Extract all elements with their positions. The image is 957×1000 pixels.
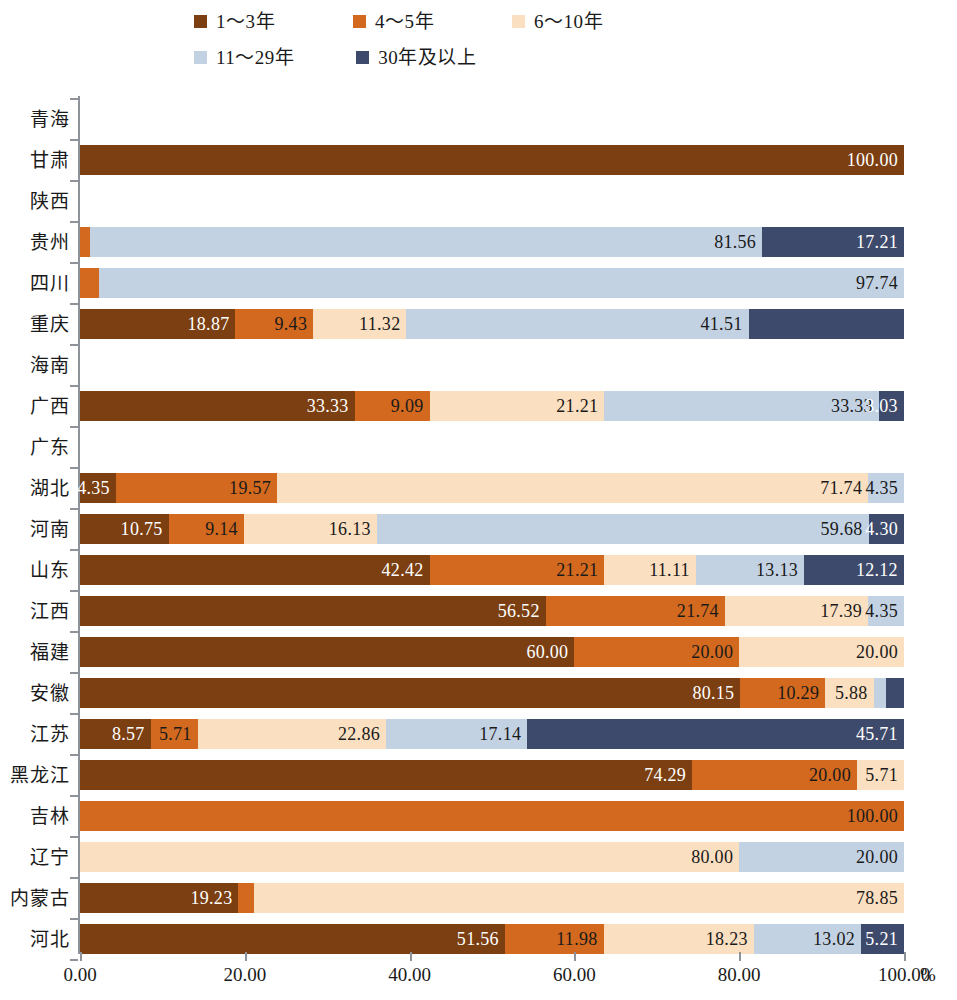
- bar-segment[interactable]: 33.33: [604, 391, 879, 421]
- bar-segment[interactable]: 78.85: [254, 883, 904, 913]
- x-axis-tick-1: [245, 952, 247, 961]
- bar-segment[interactable]: 100.00: [80, 145, 904, 175]
- bar-segment[interactable]: 100.00: [80, 801, 904, 831]
- legend-item-1-3years[interactable]: 1～3年: [194, 6, 275, 36]
- bar-segment[interactable]: 60.00: [80, 637, 574, 667]
- bar-row[interactable]: 10.759.1416.1359.684.30: [80, 514, 904, 544]
- bar-row[interactable]: 4.3519.5771.744.35: [80, 473, 904, 503]
- bar-segment[interactable]: 5.71: [857, 760, 904, 790]
- bar-segment[interactable]: 8.57: [80, 719, 151, 749]
- bar-segment[interactable]: 5.21: [861, 924, 904, 954]
- y-axis-tick-6: [70, 344, 78, 346]
- bar-row[interactable]: 51.5611.9818.2313.025.21: [80, 924, 904, 954]
- bar-segment[interactable]: 13.02: [754, 924, 861, 954]
- bar-segment[interactable]: 21.21: [430, 555, 605, 585]
- bar-segment[interactable]: 20.00: [574, 637, 739, 667]
- bar-segment[interactable]: 45.71: [527, 719, 904, 749]
- bar-segment[interactable]: 5.71: [151, 719, 198, 749]
- legend-item-6-10years[interactable]: 6～10年: [512, 6, 603, 36]
- bar-segment[interactable]: 4.30: [869, 514, 904, 544]
- y-axis-label-15: 江苏: [30, 725, 70, 744]
- bar-segment[interactable]: 9.14: [169, 514, 244, 544]
- bar-segment[interactable]: 59.68: [377, 514, 869, 544]
- bar-segment[interactable]: 10.29: [740, 678, 825, 708]
- bar-segment[interactable]: [886, 678, 904, 708]
- bar-segment-value: 18.23: [706, 930, 748, 948]
- bar-segment[interactable]: 12.12: [804, 555, 904, 585]
- bar-segment[interactable]: 74.29: [80, 760, 692, 790]
- bar-segment[interactable]: 80.15: [80, 678, 740, 708]
- bar-row[interactable]: 42.4221.2111.1113.1312.12: [80, 555, 904, 585]
- y-axis-label-2: 陕西: [30, 192, 70, 211]
- bar-segment[interactable]: 19.57: [116, 473, 277, 503]
- bar-segment-value: 5.71: [159, 725, 192, 743]
- bar-row[interactable]: 56.5221.7417.394.35: [80, 596, 904, 626]
- bar-segment[interactable]: 4.35: [868, 596, 904, 626]
- bar-row[interactable]: 74.2920.005.71: [80, 760, 904, 790]
- bar-segment[interactable]: 13.13: [696, 555, 804, 585]
- bar-segment[interactable]: [238, 883, 254, 913]
- bar-row[interactable]: [80, 186, 904, 216]
- bar-segment[interactable]: [80, 268, 99, 298]
- bar-segment[interactable]: 33.33: [80, 391, 355, 421]
- bar-segment[interactable]: 18.23: [604, 924, 754, 954]
- bar-row[interactable]: 18.879.4311.3241.51: [80, 309, 904, 339]
- bar-segment[interactable]: 9.09: [355, 391, 430, 421]
- legend-item-4-5years[interactable]: 4～5年: [353, 6, 434, 36]
- y-axis-category-labels: 青海甘肃陕西贵州四川重庆海南广西广东湖北河南山东江西福建安徽江苏黑龙江吉林辽宁内…: [0, 92, 78, 954]
- bar-segment[interactable]: 80.00: [80, 842, 739, 872]
- bar-segment[interactable]: 18.87: [80, 309, 235, 339]
- bar-segment[interactable]: 81.56: [90, 227, 762, 257]
- bar-row[interactable]: 8.575.7122.8617.1445.71: [80, 719, 904, 749]
- legend-item-11-29years[interactable]: 11～29年: [194, 42, 294, 72]
- bar-row[interactable]: 60.0020.0020.00: [80, 637, 904, 667]
- bar-segment[interactable]: 17.21: [762, 227, 904, 257]
- bar-row[interactable]: 80.1510.295.88: [80, 678, 904, 708]
- bar-row[interactable]: 81.5617.21: [80, 227, 904, 257]
- bar-row[interactable]: 100.00: [80, 145, 904, 175]
- bar-row[interactable]: 80.0020.00: [80, 842, 904, 872]
- bar-row[interactable]: [80, 350, 904, 380]
- bar-segment[interactable]: 20.00: [692, 760, 857, 790]
- bar-row[interactable]: 100.00: [80, 801, 904, 831]
- bar-segment[interactable]: [874, 678, 886, 708]
- bar-segment[interactable]: 21.21: [430, 391, 605, 421]
- bar-segment[interactable]: 41.51: [406, 309, 748, 339]
- legend-label-11-29years: 11～29年: [216, 48, 294, 67]
- bar-segment[interactable]: 17.39: [725, 596, 868, 626]
- bar-segment[interactable]: 3.03: [879, 391, 904, 421]
- bar-row[interactable]: 19.2378.85: [80, 883, 904, 913]
- bar-segment[interactable]: 56.52: [80, 596, 546, 626]
- bar-segment-value: 42.42: [382, 561, 424, 579]
- bar-segment[interactable]: [80, 227, 90, 257]
- bar-segment[interactable]: 11.98: [505, 924, 604, 954]
- bar-segment[interactable]: 21.74: [546, 596, 725, 626]
- bar-segment-value: 19.23: [190, 889, 232, 907]
- bar-row[interactable]: [80, 104, 904, 134]
- bar-segment-value: 11.11: [649, 561, 690, 579]
- bar-segment[interactable]: 51.56: [80, 924, 505, 954]
- bar-segment[interactable]: [749, 309, 904, 339]
- bar-segment[interactable]: 11.32: [313, 309, 406, 339]
- bar-segment[interactable]: 11.11: [604, 555, 696, 585]
- bar-segment[interactable]: 22.86: [198, 719, 386, 749]
- bar-segment[interactable]: 4.35: [80, 473, 116, 503]
- y-axis-label-5: 重庆: [30, 315, 70, 334]
- bar-segment[interactable]: 20.00: [739, 842, 904, 872]
- bar-segment[interactable]: 17.14: [386, 719, 527, 749]
- bar-segment[interactable]: 10.75: [80, 514, 169, 544]
- bar-segment[interactable]: 97.74: [99, 268, 904, 298]
- bar-segment[interactable]: 19.23: [80, 883, 238, 913]
- bar-row[interactable]: 97.74: [80, 268, 904, 298]
- bar-segment[interactable]: 20.00: [739, 637, 904, 667]
- legend-item-30years-plus[interactable]: 30年及以上: [356, 42, 476, 72]
- bar-segment[interactable]: 5.88: [825, 678, 873, 708]
- y-axis-tick-16: [70, 754, 78, 756]
- bar-segment[interactable]: 42.42: [80, 555, 430, 585]
- bar-segment[interactable]: 71.74: [277, 473, 868, 503]
- bar-segment[interactable]: 16.13: [244, 514, 377, 544]
- bar-segment[interactable]: 9.43: [235, 309, 313, 339]
- bar-row[interactable]: [80, 432, 904, 462]
- bar-row[interactable]: 33.339.0921.2133.333.03: [80, 391, 904, 421]
- bar-segment[interactable]: 4.35: [868, 473, 904, 503]
